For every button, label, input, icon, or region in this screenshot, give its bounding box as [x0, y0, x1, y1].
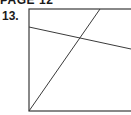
geometry-figure [0, 0, 131, 115]
transversal-line [29, 27, 131, 49]
rectangle [29, 9, 131, 111]
diagonal-line [29, 9, 100, 111]
